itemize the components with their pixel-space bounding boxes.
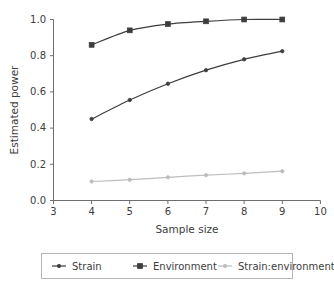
y-axis-title: Estimated power xyxy=(8,65,20,155)
data-point-marker xyxy=(280,17,285,22)
data-point-marker xyxy=(281,169,284,172)
data-point-marker xyxy=(166,82,169,85)
data-point-marker xyxy=(242,17,247,22)
legend-swatch-marker xyxy=(223,264,226,267)
y-tick-label: 0.8 xyxy=(30,50,46,61)
x-axis-title: Sample size xyxy=(155,223,218,235)
data-point-marker xyxy=(281,49,284,52)
x-tick-label: 5 xyxy=(127,206,133,217)
data-point-marker xyxy=(242,172,245,175)
data-point-marker xyxy=(204,173,207,176)
data-point-marker xyxy=(166,176,169,179)
x-tick-label: 3 xyxy=(50,206,56,217)
y-tick-label: 0.2 xyxy=(30,159,46,170)
data-point-marker xyxy=(204,19,209,24)
legend-swatch-marker xyxy=(138,264,143,269)
data-point-marker xyxy=(90,117,93,120)
data-point-marker xyxy=(89,42,94,47)
figure-background xyxy=(0,0,334,285)
data-point-marker xyxy=(127,28,132,33)
data-point-marker xyxy=(128,98,131,101)
legend-item-label: Strain:environment xyxy=(238,261,334,272)
y-tick-label: 0.6 xyxy=(30,86,46,97)
legend-item-label: Strain xyxy=(72,261,102,272)
y-tick-label: 0.4 xyxy=(30,122,46,133)
data-point-marker xyxy=(165,22,170,27)
chart-canvas: 0.0 0.2 0.4 0.6 0.8 1.0 3 4 5 6 7 8 9 xyxy=(0,0,334,285)
x-tick-label: 6 xyxy=(165,206,171,217)
x-tick-label: 8 xyxy=(241,206,247,217)
data-point-marker xyxy=(90,180,93,183)
legend-swatch-marker xyxy=(57,264,60,267)
x-tick-label: 9 xyxy=(279,206,285,217)
data-point-marker xyxy=(128,178,131,181)
power-curve-figure: 0.0 0.2 0.4 0.6 0.8 1.0 3 4 5 6 7 8 9 xyxy=(0,0,334,285)
data-point-marker xyxy=(204,68,207,71)
x-tick-label: 4 xyxy=(88,206,94,217)
x-tick-label: 10 xyxy=(314,206,327,217)
y-tick-label: 1.0 xyxy=(30,14,46,25)
y-tick-label: 0.0 xyxy=(30,195,46,206)
legend-entries: StrainEnvironmentStrain:environment xyxy=(52,261,334,272)
legend-item-label: Environment xyxy=(153,261,217,272)
x-tick-label: 7 xyxy=(203,206,209,217)
data-point-marker xyxy=(242,58,245,61)
